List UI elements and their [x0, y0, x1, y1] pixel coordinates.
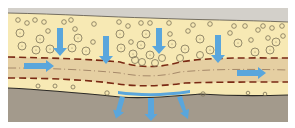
soil-cross-section-diagram	[0, 0, 295, 128]
diagram-canvas	[0, 0, 295, 128]
